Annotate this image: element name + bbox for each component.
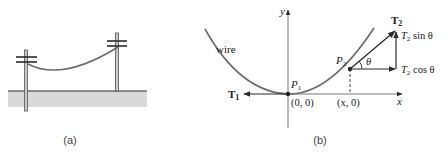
theta-label: θ xyxy=(366,56,371,67)
wire-curve xyxy=(205,28,374,94)
wire-label: wire xyxy=(216,43,236,55)
ground xyxy=(8,91,147,107)
t2-label: T2 xyxy=(391,14,402,28)
t2-vector xyxy=(350,31,395,69)
t1-label: T1 xyxy=(228,88,239,102)
t2-sin-label: T2 sin θ xyxy=(401,30,433,43)
figure-a: (a) xyxy=(8,33,147,146)
x0-label: (x, 0) xyxy=(337,97,360,109)
caption-a: (a) xyxy=(63,134,76,146)
right-pole xyxy=(107,33,127,91)
caption-b: (b) xyxy=(313,134,326,146)
y-axis-label: y xyxy=(279,5,285,17)
theta-arc xyxy=(359,61,362,69)
p2-label: P2 xyxy=(335,54,347,68)
p1-label: P1 xyxy=(290,78,302,92)
figure-b: y x wire T1 P1 (0, 0) P2 (x, 0) T2 θ T2 … xyxy=(205,5,435,146)
origin-label: (0, 0) xyxy=(291,97,314,109)
t2-cos-label: T2 cos θ xyxy=(401,64,435,77)
hanging-wire xyxy=(28,47,118,70)
x-axis-label: x xyxy=(396,95,402,107)
figure-canvas: (a) y x wire T1 P1 (0, 0) P2 (x, 0) T2 θ xyxy=(0,0,447,156)
p1-point xyxy=(286,92,290,96)
